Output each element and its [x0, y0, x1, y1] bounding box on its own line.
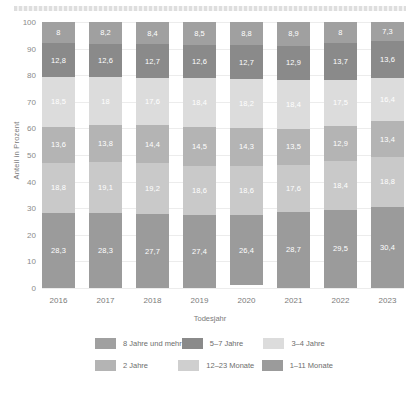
bar-segment[interactable]: 16,4 — [371, 78, 404, 122]
bar-segment[interactable]: 17,6 — [277, 165, 310, 212]
bar-segment[interactable]: 13,6 — [42, 127, 75, 163]
legend-label: 3–4 Jahre — [291, 339, 324, 348]
legend-swatch — [95, 360, 116, 371]
bar-segment[interactable]: 18,6 — [183, 166, 216, 215]
x-axis-tick-label: 2021 — [285, 296, 303, 305]
bar-segment[interactable]: 18,5 — [42, 77, 75, 126]
bar-segment[interactable]: 14,3 — [230, 128, 263, 166]
bar-segment[interactable]: 7,3 — [371, 22, 404, 41]
bar-segment[interactable]: 8,2 — [89, 22, 122, 44]
bar-segment[interactable]: 18,4 — [277, 80, 310, 129]
bar-segment[interactable]: 14,5 — [183, 127, 216, 166]
legend-item[interactable]: 1–11 Monate — [262, 360, 345, 371]
x-axis-title: Todesjahr — [0, 314, 420, 323]
bar-segment-label: 13,6 — [380, 55, 395, 64]
x-axis-tick-label: 2022 — [332, 296, 350, 305]
bar-segment[interactable]: 28,3 — [89, 213, 122, 288]
bar-segment[interactable]: 27,7 — [136, 214, 169, 288]
legend-item[interactable]: 5–7 Jahre — [182, 338, 264, 349]
bar-segment[interactable]: 8,8 — [230, 22, 263, 45]
legend-label: 12–23 Monate — [206, 361, 254, 370]
bar-segment[interactable]: 8 — [324, 22, 357, 43]
bar-column[interactable]: 7,313,616,413,418,830,42023 — [371, 22, 404, 288]
bar-segment[interactable]: 12,7 — [136, 44, 169, 78]
bar-column[interactable]: 8,212,61813,819,128,32017 — [89, 22, 122, 288]
bar-segment-label: 30,4 — [380, 243, 395, 252]
y-axis-tick-label: 20 — [27, 230, 36, 239]
bar-segment-label: 18,8 — [380, 177, 395, 186]
bar-segment-label: 17,6 — [145, 97, 160, 106]
bar-segment[interactable]: 8 — [42, 22, 75, 43]
bar-segment[interactable]: 13,7 — [324, 43, 357, 79]
y-axis-title: Anteil in Prozent — [12, 91, 21, 211]
bar-segment[interactable]: 28,7 — [277, 212, 310, 288]
legend-item[interactable]: 12–23 Monate — [178, 360, 261, 371]
y-axis-tick-label: 50 — [27, 151, 36, 160]
bar-segment-label: 18,5 — [51, 97, 66, 106]
bar-segment-label: 13,7 — [333, 57, 348, 66]
bar-segment[interactable]: 28,3 — [42, 213, 75, 288]
bar-segment[interactable]: 18,6 — [230, 166, 263, 215]
bar-segment-label: 8,8 — [241, 29, 252, 38]
legend-item[interactable]: 3–4 Jahre — [263, 338, 345, 349]
bar-segment[interactable]: 13,4 — [371, 121, 404, 157]
bar-segment-label: 19,2 — [145, 184, 160, 193]
bar-segment[interactable]: 30,4 — [371, 207, 404, 288]
bar-segment[interactable]: 18,2 — [230, 79, 263, 127]
bar-segment[interactable]: 29,5 — [324, 210, 357, 288]
bar-segment[interactable]: 18,8 — [371, 157, 404, 207]
bar-segment-label: 29,5 — [333, 244, 348, 253]
legend-item[interactable]: 2 Jahre — [95, 360, 178, 371]
chart-legend: 8 Jahre und mehr5–7 Jahre3–4 Jahre2 Jahr… — [95, 338, 345, 382]
bar-segment[interactable]: 17,6 — [136, 78, 169, 125]
bar-segment[interactable]: 18,4 — [183, 78, 216, 127]
bar-segment[interactable]: 12,9 — [324, 126, 357, 160]
bar-segment-label: 14,3 — [239, 142, 254, 151]
bar-segment-label: 27,7 — [145, 247, 160, 256]
bar-segment[interactable]: 8,4 — [136, 22, 169, 44]
bar-segment-label: 13,4 — [380, 135, 395, 144]
bar-segment[interactable]: 12,6 — [89, 44, 122, 78]
bar-segment-label: 18,2 — [239, 99, 254, 108]
bar-segment[interactable]: 12,9 — [277, 46, 310, 80]
bar-segment-label: 12,6 — [98, 56, 113, 65]
bar-segment[interactable]: 18,4 — [324, 161, 357, 210]
bar-segment[interactable]: 8,5 — [183, 22, 216, 45]
bar-segment[interactable]: 18,8 — [42, 163, 75, 213]
bar-segment[interactable]: 13,6 — [371, 41, 404, 77]
bar-segment-label: 13,6 — [51, 140, 66, 149]
bar-segment[interactable]: 17,5 — [324, 80, 357, 127]
x-axis-tick-label: 2016 — [50, 296, 68, 305]
bar-column[interactable]: 812,818,513,618,828,32016 — [42, 22, 75, 288]
bar-column[interactable]: 813,717,512,918,429,52022 — [324, 22, 357, 288]
bar-column[interactable]: 8,412,717,614,419,227,72018 — [136, 22, 169, 288]
bar-segment[interactable]: 12,7 — [230, 45, 263, 79]
bar-group: 812,818,513,618,828,320168,212,61813,819… — [42, 22, 404, 288]
bar-segment[interactable]: 19,1 — [89, 162, 122, 213]
bar-column[interactable]: 8,812,718,214,318,626,42020 — [230, 22, 263, 288]
bar-segment[interactable]: 18 — [89, 77, 122, 125]
bar-segment[interactable]: 19,2 — [136, 163, 169, 214]
bar-segment-label: 14,5 — [192, 142, 207, 151]
legend-swatch — [95, 338, 116, 349]
x-axis-tick-label: 2023 — [379, 296, 397, 305]
bar-segment[interactable]: 14,4 — [136, 125, 169, 163]
bar-segment[interactable]: 8,9 — [277, 22, 310, 46]
bar-segment-label: 8 — [338, 28, 342, 37]
bar-column[interactable]: 8,512,618,414,518,627,42019 — [183, 22, 216, 288]
bar-segment[interactable]: 27,4 — [183, 215, 216, 288]
bar-segment-label: 13,8 — [98, 139, 113, 148]
bar-segment[interactable]: 26,4 — [230, 215, 263, 285]
bar-segment-label: 18,6 — [239, 186, 254, 195]
bar-segment-label: 8,9 — [288, 29, 299, 38]
bar-segment[interactable]: 13,5 — [277, 129, 310, 165]
legend-row: 8 Jahre und mehr5–7 Jahre3–4 Jahre — [95, 338, 345, 349]
bar-column[interactable]: 8,912,918,413,517,628,72021 — [277, 22, 310, 288]
legend-item[interactable]: 8 Jahre und mehr — [95, 338, 182, 349]
bar-segment[interactable]: 13,8 — [89, 125, 122, 162]
bar-segment-label: 14,4 — [145, 140, 160, 149]
bar-segment-label: 28,7 — [286, 245, 301, 254]
bar-segment-label: 12,9 — [286, 58, 301, 67]
bar-segment[interactable]: 12,8 — [42, 43, 75, 77]
bar-segment[interactable]: 12,6 — [183, 45, 216, 79]
